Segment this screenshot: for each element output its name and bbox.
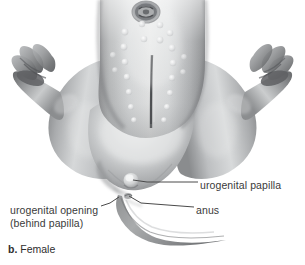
label-urogenital-opening-line1: urogenital opening bbox=[10, 204, 98, 216]
caption-text: Female bbox=[20, 243, 55, 255]
label-urogenital-opening: urogenital opening(behind papilla) bbox=[10, 204, 98, 229]
label-urogenital-opening-line2: (behind papilla) bbox=[10, 217, 98, 230]
label-anus: anus bbox=[196, 204, 219, 217]
caption-letter: b. bbox=[8, 243, 17, 255]
anatomical-figure: urogenital papilla anus urogenital openi… bbox=[0, 0, 305, 265]
trunk bbox=[99, 0, 207, 138]
label-urogenital-papilla: urogenital papilla bbox=[200, 179, 281, 192]
mouth bbox=[132, 1, 160, 23]
figure-caption: b. Female bbox=[8, 243, 55, 255]
